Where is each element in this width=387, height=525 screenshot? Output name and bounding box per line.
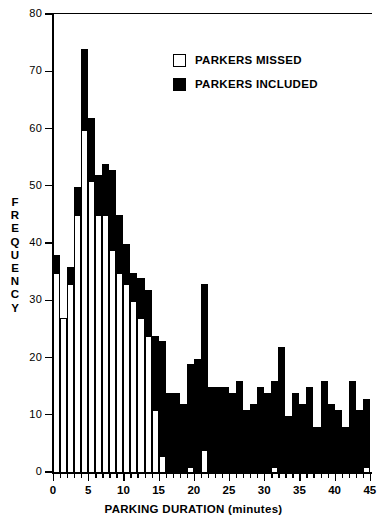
x-tick-35 [299,473,300,481]
bar-segment-parkers-included [201,284,208,450]
y-tick-label-40: 40 [29,237,42,248]
x-tick-7 [102,473,103,478]
bar-stack [173,393,180,473]
bar-stack [180,404,187,473]
y-tick-80 [45,13,52,14]
bar-stack [278,347,285,473]
bar-stack [363,399,370,473]
bar-segment-parkers-missed [159,456,166,473]
bar-stack [60,318,67,473]
y-tick-label-30: 30 [29,294,42,305]
bar-stack [335,410,342,473]
y-tick-label-60: 60 [29,123,42,134]
x-tick-label-40: 40 [323,484,347,496]
y-tick-40 [45,242,52,243]
bar-segment-parkers-included [321,381,328,473]
bar-segment-parkers-included [53,255,60,272]
y-tick-label-20: 20 [29,352,42,363]
bar-stack [159,341,166,473]
bar-stack [67,267,74,473]
bar-segment-parkers-included [166,393,173,473]
bar-stack [102,164,109,473]
x-tick-16 [166,473,167,478]
bar-segment-parkers-included [271,381,278,467]
x-tick-9 [116,473,117,478]
x-tick-19 [187,473,188,478]
bar-segment-parkers-missed [81,130,88,474]
x-axis-title: PARKING DURATION (minutes) [0,503,387,515]
x-tick-label-15: 15 [147,484,171,496]
bar-stack [313,427,320,473]
x-tick-label-35: 35 [287,484,311,496]
bar-stack [215,387,222,473]
x-tick-label-30: 30 [252,484,276,496]
bar-segment-parkers-missed [116,273,123,473]
bar-stack [187,364,194,473]
bar-segment-parkers-included [236,381,243,473]
y-tick-50 [45,185,52,186]
bar-segment-parkers-included [285,416,292,473]
bar-segment-parkers-included [306,387,313,473]
x-tick-29 [257,473,258,478]
x-tick-43 [356,473,357,478]
bar-segment-parkers-missed [53,273,60,473]
x-tick-14 [152,473,153,478]
x-tick-4 [81,473,82,478]
x-tick-label-10: 10 [111,484,135,496]
bar-stack [145,290,152,473]
bar-segment-parkers-included [81,49,88,129]
bar-stack [123,244,130,473]
y-tick-label-70: 70 [29,65,42,76]
x-tick-12 [137,473,138,478]
bar-stack [243,410,250,473]
bar-segment-parkers-included [250,404,257,473]
y-tick-label-10: 10 [29,409,42,420]
bar-segment-parkers-included [102,164,109,216]
bar-stack [130,273,137,473]
bar-stack [250,404,257,473]
x-tick-42 [349,473,350,478]
x-tick-label-20: 20 [182,484,206,496]
bar-segment-parkers-included [222,387,229,473]
x-tick-0 [53,473,54,481]
bar-segment-parkers-included [208,387,215,473]
bar-segment-parkers-included [342,427,349,473]
bar-segment-parkers-missed [187,467,194,473]
x-tick-26 [236,473,237,478]
y-axis-title: F R E Q U E N C Y [8,196,22,315]
bar-stack [116,215,123,473]
x-tick-23 [215,473,216,478]
bar-segment-parkers-missed [95,215,102,473]
bar-segment-parkers-included [356,410,363,473]
bar-stack [194,359,201,474]
x-tick-17 [173,473,174,478]
x-tick-label-5: 5 [76,484,100,496]
x-tick-8 [109,473,110,478]
x-tick-21 [201,473,202,478]
bar-segment-parkers-included [229,393,236,473]
bar-segment-parkers-missed [145,336,152,473]
bar-stack [53,255,60,473]
x-tick-5 [88,473,89,481]
x-tick-24 [222,473,223,478]
x-tick-31 [271,473,272,478]
bar-stack [349,381,356,473]
bar-stack [152,336,159,473]
x-tick-22 [208,473,209,478]
x-tick-label-0: 0 [41,484,65,496]
x-tick-37 [313,473,314,478]
bar-stack [342,427,349,473]
legend-item-parkers-included: PARKERS INCLUDED [173,72,318,96]
bar-stack [109,170,116,473]
bar-segment-parkers-included [215,387,222,473]
bar-segment-parkers-missed [74,215,81,473]
bar-segment-parkers-included [335,410,342,473]
x-tick-13 [145,473,146,478]
bar-segment-parkers-included [159,341,166,456]
y-tick-70 [45,71,52,72]
bar-segment-parkers-included [130,273,137,302]
x-tick-28 [250,473,251,478]
x-tick-38 [321,473,322,478]
bar-segment-parkers-missed [60,318,67,473]
x-tick-39 [328,473,329,478]
